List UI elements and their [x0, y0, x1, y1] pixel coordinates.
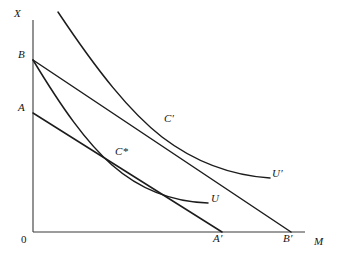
- y-axis-title: X: [14, 8, 21, 19]
- figure-canvas: [0, 0, 341, 267]
- x-axis-title: M: [314, 236, 323, 247]
- point-label-b-prime: B′: [283, 233, 293, 244]
- tangency-label-c-prime: C′: [164, 113, 174, 124]
- budget-line-a: [33, 113, 222, 232]
- indifference-curve-figure: X M 0 B A A′ B′ C* C′ U U′: [0, 0, 341, 267]
- origin-label: 0: [21, 234, 27, 245]
- tangency-label-c-star: C*: [115, 146, 128, 157]
- point-label-a-prime: A′: [213, 233, 223, 244]
- indifference-curve-u: [33, 60, 208, 203]
- indifference-curve-u-prime: [58, 12, 270, 178]
- point-label-b: B: [18, 49, 25, 60]
- point-label-a: A: [18, 102, 25, 113]
- curve-label-u-prime: U′: [272, 168, 283, 179]
- curve-label-u: U: [211, 193, 219, 204]
- budget-line-b: [33, 60, 291, 232]
